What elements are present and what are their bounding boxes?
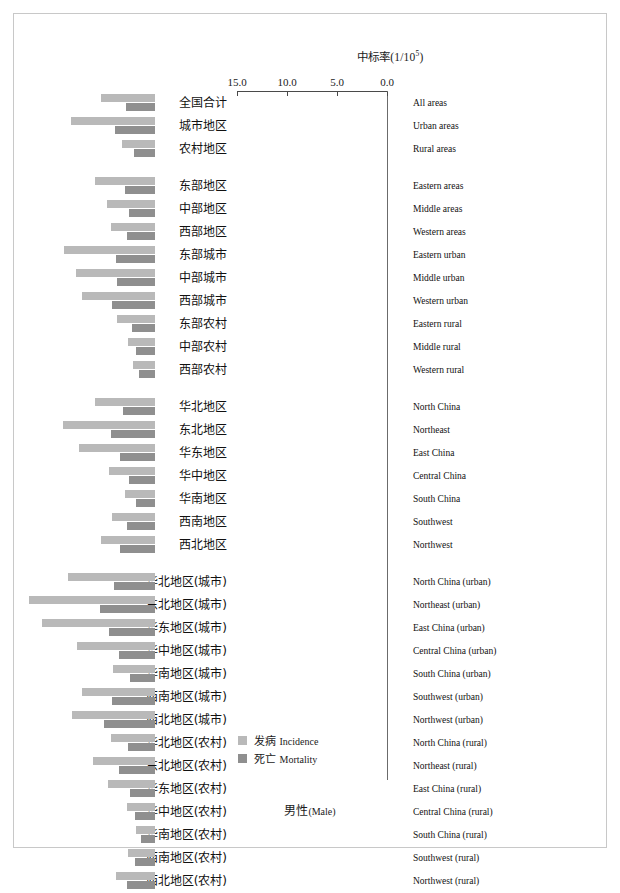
chart-row: 西部地区Western areas: [0, 221, 620, 244]
bar-mortality: [127, 232, 155, 240]
row-bars: [0, 755, 388, 778]
bar-incidence: [76, 269, 155, 277]
bar-incidence: [93, 757, 155, 765]
bar-incidence: [109, 467, 155, 475]
bar-incidence: [107, 200, 155, 208]
row-label-en: North China (rural): [413, 732, 487, 755]
chart-row: 农村地区Rural areas: [0, 138, 620, 161]
row-label-en: Southwest (rural): [413, 847, 479, 870]
bar-incidence: [128, 338, 155, 346]
row-bars: [0, 336, 388, 359]
chart-row: 中部城市Middle urban: [0, 267, 620, 290]
chart-row: 中部农村Middle rural: [0, 336, 620, 359]
chart-row: 西部城市Western urban: [0, 290, 620, 313]
bar-incidence: [77, 642, 155, 650]
row-label-en: Middle areas: [413, 198, 462, 221]
bar-mortality: [111, 430, 155, 438]
row-bars: [0, 640, 388, 663]
bar-mortality: [104, 720, 155, 728]
row-bars: [0, 198, 388, 221]
chart-row: 东部地区Eastern areas: [0, 175, 620, 198]
chart-row: 西南地区Southwest: [0, 511, 620, 534]
bar-incidence: [136, 826, 155, 834]
row-label-en: Central China: [413, 465, 466, 488]
bar-mortality: [123, 407, 155, 415]
row-label-en: Northeast (urban): [413, 594, 480, 617]
x-axis-tick-label: 15.0: [217, 76, 257, 88]
row-label-en: Eastern rural: [413, 313, 462, 336]
chart-row: 东北地区Northeast: [0, 419, 620, 442]
chart-row: 西北地区(城市)Northwest (urban): [0, 709, 620, 732]
row-bars: [0, 138, 388, 161]
bar-mortality: [125, 186, 155, 194]
chart-row: 西北地区(农村)Northwest (rural): [0, 870, 620, 893]
chart-row: 西南地区(农村)Southwest (rural): [0, 847, 620, 870]
bar-mortality: [120, 545, 155, 553]
row-label-en: Central China (urban): [413, 640, 496, 663]
footer-label-cn: 男性: [284, 804, 308, 818]
bar-incidence: [101, 94, 155, 102]
chart-row: 华中地区Central China: [0, 465, 620, 488]
row-label-en: Southwest (urban): [413, 686, 483, 709]
row-label-en: Eastern urban: [413, 244, 466, 267]
row-bars: [0, 396, 388, 419]
bar-mortality: [100, 605, 155, 613]
row-bars: [0, 571, 388, 594]
bar-mortality: [112, 697, 155, 705]
row-label-en: South China (rural): [413, 824, 487, 847]
chart-row: 华北地区(城市)North China (urban): [0, 571, 620, 594]
row-label-en: Northwest (urban): [413, 709, 483, 732]
bar-mortality: [120, 453, 155, 461]
bar-mortality: [128, 743, 155, 751]
bar-mortality: [141, 835, 155, 843]
bar-incidence: [72, 711, 155, 719]
bar-mortality: [127, 881, 155, 889]
row-label-en: Western areas: [413, 221, 466, 244]
chart-row: 华东地区East China: [0, 442, 620, 465]
bar-mortality: [129, 476, 155, 484]
chart-row: 华南地区South China: [0, 488, 620, 511]
chart-footer: 男性(Male): [0, 801, 620, 818]
chart-row: 东部城市Eastern urban: [0, 244, 620, 267]
row-label-en: East China (urban): [413, 617, 485, 640]
bar-incidence: [63, 421, 155, 429]
legend-swatch-mortality-icon: [238, 754, 247, 763]
legend-label-mortality: 死亡 Mortality: [254, 750, 317, 766]
chart-row: 西南地区(城市)Southwest (urban): [0, 686, 620, 709]
row-bars: [0, 267, 388, 290]
bar-incidence: [79, 444, 155, 452]
row-label-en: Rural areas: [413, 138, 456, 161]
bar-incidence: [64, 246, 155, 254]
axis-title: 中标率(1/105): [300, 48, 480, 64]
bar-mortality: [117, 278, 155, 286]
bar-incidence: [112, 513, 155, 521]
bar-incidence: [71, 117, 155, 125]
row-bars: [0, 617, 388, 640]
row-label-en: Middle rural: [413, 336, 461, 359]
row-bars: [0, 534, 388, 557]
row-label-en: South China (urban): [413, 663, 491, 686]
bar-incidence: [113, 665, 155, 673]
bar-mortality: [126, 103, 155, 111]
row-label-en: All areas: [413, 92, 447, 115]
row-label-en: Western urban: [413, 290, 468, 313]
legend-item-mortality: 死亡 Mortality: [238, 749, 318, 767]
bar-mortality: [119, 651, 155, 659]
row-label-en: Northeast (rural): [413, 755, 477, 778]
bar-incidence: [133, 361, 155, 369]
row-bars: [0, 419, 388, 442]
row-bars: [0, 221, 388, 244]
row-bars: [0, 442, 388, 465]
row-bars: [0, 290, 388, 313]
legend-label-incidence: 发病 Incidence: [254, 732, 318, 748]
bar-mortality: [134, 149, 155, 157]
axis-title-close: ): [419, 51, 423, 63]
row-label-en: Middle urban: [413, 267, 464, 290]
chart-row: 华南地区(城市)South China (urban): [0, 663, 620, 686]
chart-row: 城市地区Urban areas: [0, 115, 620, 138]
chart-row: 华东地区(农村)East China (rural): [0, 778, 620, 801]
bar-mortality: [114, 582, 155, 590]
bar-incidence: [117, 315, 155, 323]
row-bars: [0, 488, 388, 511]
row-label-en: Western rural: [413, 359, 464, 382]
